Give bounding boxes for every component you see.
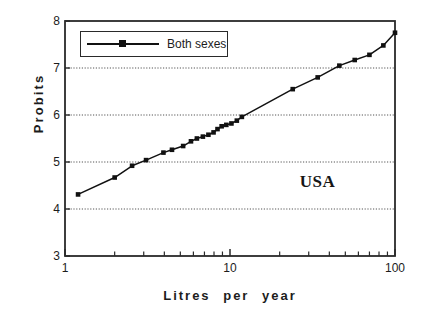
chart-figure: 345678 110100 Probits Litres per year US… (0, 0, 423, 323)
x-tick-label: 100 (375, 262, 415, 274)
chart-legend: Both sexes (80, 31, 228, 57)
legend-label-both-sexes: Both sexes (167, 37, 226, 51)
y-axis-title: Probits (31, 44, 46, 164)
x-tick-label: 10 (210, 262, 250, 274)
x-axis-title: Litres per year (65, 288, 395, 303)
legend-line-marker-icon (87, 37, 159, 51)
x-tick-label: 1 (45, 262, 85, 274)
usa-annotation: USA (300, 172, 336, 192)
